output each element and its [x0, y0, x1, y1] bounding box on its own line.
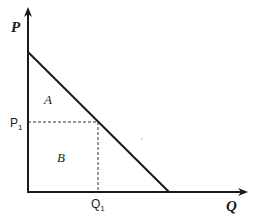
speck-mark [141, 138, 142, 139]
region-b-label: B [57, 150, 65, 165]
quantity-q1-main: Q [91, 197, 100, 211]
demand-diagram: P Q A B P1 Q1 [0, 0, 257, 222]
price-p1-label: P1 [10, 116, 23, 132]
price-axis-label: P [11, 19, 21, 35]
price-p1-sub: 1 [18, 123, 23, 132]
quantity-axis-label: Q [226, 198, 237, 214]
quantity-q1-label: Q1 [91, 197, 105, 213]
quantity-q1-sub: 1 [100, 204, 105, 213]
price-p1-main: P [10, 116, 18, 130]
region-a-label: A [43, 92, 52, 107]
